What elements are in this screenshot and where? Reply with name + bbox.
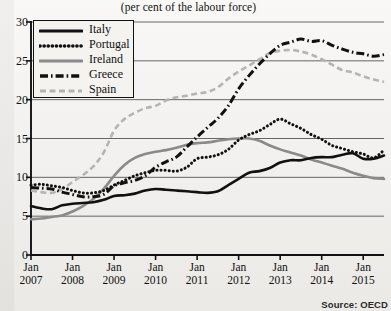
legend-item-spain: Spain: [34, 82, 133, 97]
legend-label-portugal: Portugal: [89, 38, 130, 50]
x-tick-label: Jan2010: [133, 261, 179, 286]
legend-item-ireland: Ireland: [34, 51, 133, 66]
y-tick-label: 30: [4, 16, 28, 28]
legend-label-greece: Greece: [89, 68, 123, 80]
x-tick-label: Jan2013: [257, 261, 303, 286]
y-tick-label: 5: [4, 210, 28, 222]
x-tick-label: Jan2012: [216, 261, 262, 286]
source-note: Source: OECD: [321, 299, 388, 310]
legend-swatch-italy: [39, 23, 83, 35]
y-tick-label: 10: [4, 171, 28, 183]
x-tick-label: Jan2009: [91, 261, 137, 286]
x-tick-label: Jan2015: [340, 261, 386, 286]
chart-legend: ItalyPortugalIrelandGreeceSpain: [33, 20, 134, 98]
legend-label-ireland: Ireland: [89, 53, 123, 65]
x-tick-label: Jan2014: [299, 261, 345, 286]
legend-item-portugal: Portugal: [34, 36, 133, 51]
x-tick-label: Jan2008: [50, 261, 96, 286]
legend-item-greece: Greece: [34, 67, 133, 82]
legend-label-italy: Italy: [89, 23, 111, 35]
y-tick-label: 25: [4, 55, 28, 67]
y-tick-label: 0: [4, 249, 28, 261]
x-tick-label: Jan2007: [8, 261, 54, 286]
legend-swatch-ireland: [39, 53, 83, 65]
legend-label-spain: Spain: [89, 83, 116, 95]
legend-swatch-greece: [39, 68, 83, 80]
x-tick-label: Jan2011: [174, 261, 220, 286]
legend-item-italy: Italy: [34, 21, 133, 36]
y-tick-label: 20: [4, 94, 28, 106]
legend-swatch-portugal: [39, 38, 83, 50]
y-tick-label: 15: [4, 133, 28, 145]
legend-swatch-spain: [39, 83, 83, 95]
series-ireland: [31, 138, 384, 219]
series-italy: [31, 153, 384, 209]
